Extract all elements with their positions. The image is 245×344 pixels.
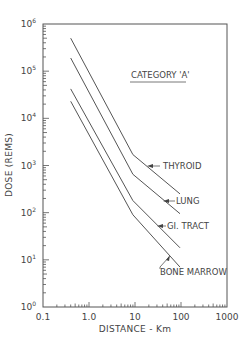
svg-text:THYROID: THYROID xyxy=(162,161,202,171)
y-tick-label: 103 xyxy=(21,159,36,171)
series-label-thyroid: THYROID xyxy=(147,161,202,171)
x-tick-label: 100 xyxy=(172,312,189,322)
series-label-gi-tract: GI. TRACT xyxy=(157,221,210,231)
x-axis-title: DISTANCE - Km xyxy=(99,324,172,334)
dose-distance-chart: 100101102103104105106 0.11.0101001000 DI… xyxy=(0,0,245,344)
svg-text:LUNG: LUNG xyxy=(176,196,199,206)
svg-text:BONE MARROW: BONE MARROW xyxy=(160,267,227,277)
x-tick-label: 1.0 xyxy=(82,312,97,322)
y-tick-label: 105 xyxy=(21,64,36,76)
series-line-lung xyxy=(71,58,180,214)
y-tick-label: 104 xyxy=(21,111,36,123)
x-tick-label: 10 xyxy=(129,312,141,322)
x-tick-label: 0.1 xyxy=(36,312,50,322)
series-label-bone-marrow: BONE MARROW xyxy=(160,255,227,277)
svg-text:GI. TRACT: GI. TRACT xyxy=(167,221,210,231)
y-tick-label: 106 xyxy=(21,17,36,29)
chart-title: CATEGORY 'A' xyxy=(131,70,190,80)
y-tick-label: 100 xyxy=(21,300,36,312)
arrow-icon xyxy=(166,255,170,261)
y-axis-title: DOSE (REMS) xyxy=(4,133,14,197)
x-tick-label: 1000 xyxy=(216,312,239,322)
x-tick-labels: 0.11.0101001000 xyxy=(36,312,239,322)
y-tick-labels: 100101102103104105106 xyxy=(21,17,36,312)
y-tick-label: 101 xyxy=(21,253,36,265)
y-tick-label: 102 xyxy=(21,206,36,218)
series-line-bone-marrow xyxy=(71,101,180,267)
